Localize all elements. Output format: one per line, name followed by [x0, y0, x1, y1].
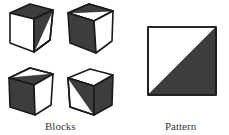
block-1-front-face	[10, 13, 34, 52]
pattern-label: Pattern	[165, 120, 196, 132]
block-1	[10, 4, 53, 52]
block-2	[68, 4, 113, 53]
block-4	[68, 69, 113, 115]
blocks-pattern-diagram	[0, 0, 229, 135]
block-3	[9, 68, 53, 115]
block-3-front-face	[9, 78, 35, 115]
pattern-square	[148, 27, 216, 95]
blocks-label: Blocks	[45, 120, 76, 132]
